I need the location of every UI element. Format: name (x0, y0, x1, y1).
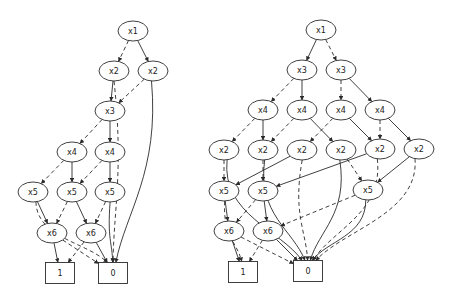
right-bdd: x1x3x3x4x4x4x4x2x2x2x2x2x2x5x5x5x6x610 (209, 20, 434, 283)
variable-node-x4: x4 (287, 100, 317, 120)
node-label: x5 (105, 188, 115, 197)
low-edge-R_x2d-to-R_x5c (347, 159, 362, 181)
node-label: x6 (47, 229, 57, 238)
left-bdd-nodes: x1x2x2x3x4x4x5x5x5x6x610 (18, 21, 168, 284)
node-label: x5 (67, 188, 77, 197)
node-label: x2 (375, 145, 385, 154)
variable-node-x4: x4 (326, 100, 356, 120)
high-edge-R_x6a-to-R_t1 (232, 241, 239, 262)
node-label: x2 (219, 146, 229, 155)
node-label: 1 (240, 268, 245, 277)
variable-node-x2: x2 (209, 140, 239, 160)
low-edge-R_x1-to-R_x3b (326, 40, 337, 61)
node-label: x6 (224, 227, 234, 236)
node-label: x3 (105, 107, 115, 116)
node-label: x2 (258, 146, 268, 155)
high-edge-L_x5b-to-L_x6b (76, 202, 86, 224)
node-label: x3 (297, 66, 307, 75)
terminal-node-1: 1 (46, 263, 75, 284)
high-edge-L_x1-to-L_x2b (138, 41, 149, 62)
high-edge-R_x5b-to-R_x6b (264, 201, 267, 221)
node-label: x1 (316, 26, 326, 35)
low-edge-L_x4b-to-L_x5b (80, 160, 102, 183)
low-edge-L_x4a-to-L_x5a (41, 160, 64, 183)
node-label: x2 (414, 145, 424, 154)
high-edge-R_x2f-to-R_x5c (378, 157, 410, 183)
node-label: 1 (57, 269, 62, 278)
high-edge-R_x2b-to-R_t0 (264, 160, 305, 261)
node-label: x5 (363, 186, 373, 195)
variable-node-x5: x5 (18, 182, 48, 202)
variable-node-x6: x6 (76, 223, 106, 243)
variable-node-x5: x5 (95, 182, 125, 202)
terminal-node-0: 0 (294, 261, 323, 282)
low-edge-L_x2b-to-L_x3 (119, 79, 145, 103)
variable-node-x2: x2 (365, 139, 395, 159)
variable-node-x5: x5 (353, 180, 383, 200)
variable-node-x2: x2 (248, 140, 278, 160)
variable-node-x1: x1 (306, 20, 336, 40)
node-label: x4 (258, 106, 268, 115)
bdd-diagram-canvas: x1x2x2x3x4x4x5x5x5x6x610 x1x3x3x4x4x4x4x… (0, 0, 450, 301)
variable-node-x6: x6 (253, 221, 283, 241)
node-label: 0 (305, 267, 310, 276)
high-edge-R_x1-to-R_x3a (307, 40, 317, 61)
node-label: x6 (263, 227, 273, 236)
high-edge-L_x6b-to-L_t0 (96, 242, 107, 262)
low-edge-L_x5c-to-L_x6b (95, 202, 105, 224)
variable-node-x2: x2 (138, 61, 168, 81)
high-edge-R_x4d-to-R_x2f (388, 118, 410, 140)
node-label: x2 (148, 67, 158, 76)
node-label: x2 (336, 146, 346, 155)
high-edge-L_x5c-to-L_t0 (109, 202, 113, 263)
node-label: x3 (336, 66, 346, 75)
high-edge-L_x2a-to-L_x3 (111, 81, 113, 101)
node-label: x4 (297, 106, 307, 115)
low-edge-L_x5b-to-L_x6a (57, 202, 68, 224)
terminal-node-0: 0 (99, 263, 128, 284)
variable-node-x4: x4 (365, 100, 395, 120)
low-edge-L_x1-to-L_x2a (119, 41, 129, 62)
right-bdd-nodes: x1x3x3x4x4x4x4x2x2x2x2x2x2x5x5x5x6x610 (209, 20, 434, 283)
high-edge-R_x2e-to-R_x5b (276, 154, 367, 187)
node-label: 0 (110, 269, 115, 278)
variable-node-x2: x2 (287, 140, 317, 160)
node-label: x4 (67, 148, 77, 157)
variable-node-x5: x5 (248, 181, 278, 201)
high-edge-R_x5c-to-R_t0 (312, 200, 366, 261)
node-label: x2 (297, 146, 307, 155)
low-edge-R_x3a-to-R_x4a (271, 78, 294, 101)
high-edge-R_x5a-to-R_x6a (225, 201, 228, 221)
variable-node-x2: x2 (99, 61, 129, 81)
node-label: x5 (28, 188, 38, 197)
node-label: x6 (86, 229, 96, 238)
high-edge-L_x6a-to-L_t1 (54, 243, 58, 263)
node-label: x2 (109, 67, 119, 76)
variable-node-x5: x5 (57, 182, 87, 202)
low-edge-R_x4a-to-R_x2a (232, 118, 255, 141)
node-label: x5 (219, 187, 229, 196)
variable-node-x2: x2 (404, 139, 434, 159)
variable-node-x1: x1 (118, 21, 148, 41)
low-edge-L_x6a-to-L_t0 (63, 240, 99, 264)
node-label: x5 (258, 187, 268, 196)
low-edge-L_x3-to-L_x4a (80, 120, 102, 144)
high-edge-L_x5a-to-L_x6a (37, 202, 47, 224)
low-edge-R_x6b-to-R_t1 (249, 240, 262, 261)
variable-node-x4: x4 (248, 100, 278, 120)
variable-node-x4: x4 (57, 142, 87, 162)
low-edge-R_x4b-to-R_x2b (271, 118, 294, 141)
variable-node-x3: x3 (287, 60, 317, 80)
node-label: x4 (105, 148, 115, 157)
variable-node-x3: x3 (95, 101, 125, 121)
left-bdd: x1x2x2x3x4x4x5x5x5x6x610 (18, 21, 168, 284)
variable-node-x6: x6 (37, 223, 67, 243)
variable-node-x6: x6 (214, 221, 244, 241)
variable-node-x2: x2 (326, 140, 356, 160)
high-edge-R_x4c-to-R_x2e (349, 118, 371, 140)
node-label: x4 (375, 106, 385, 115)
variable-node-x3: x3 (326, 60, 356, 80)
variable-node-x4: x4 (95, 142, 125, 162)
low-edge-R_x5c-to-R_x6b (281, 195, 355, 226)
low-edge-R_x2e-to-R_t0 (313, 159, 378, 261)
